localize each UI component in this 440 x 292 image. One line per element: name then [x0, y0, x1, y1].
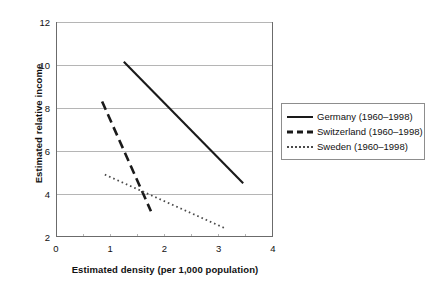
- y-tick-label: 2: [45, 232, 50, 243]
- series-line-0: [124, 62, 243, 183]
- x-tick-label: 2: [162, 243, 167, 254]
- plot-area: 24681012 01234: [56, 22, 273, 237]
- data-series: [102, 62, 243, 229]
- y-tick-label: 10: [39, 60, 50, 71]
- legend-item-label: Germany (1960–1998): [317, 111, 413, 122]
- y-tick-label: 8: [45, 103, 50, 114]
- series-line-1: [102, 102, 151, 212]
- chart-legend: Germany (1960–1998)Switzerland (1960–199…: [281, 103, 425, 160]
- x-axis-title: Estimated density (per 1,000 population): [56, 264, 274, 275]
- legend-swatch-dotted-icon: [287, 142, 313, 152]
- legend-swatch-solid-icon: [287, 112, 313, 122]
- legend-item: Germany (1960–1998): [287, 109, 420, 124]
- legend-swatch-dashed-icon: [287, 127, 313, 137]
- gridlines: [56, 22, 273, 194]
- x-tick-label: 3: [216, 243, 221, 254]
- legend-item-label: Sweden (1960–1998): [317, 141, 408, 152]
- legend-item-label: Switzerland (1960–1998): [317, 126, 423, 137]
- series-line-2: [105, 175, 225, 229]
- x-tick-label: 1: [108, 243, 113, 254]
- y-tick-label: 6: [45, 146, 50, 157]
- legend-item: Switzerland (1960–1998): [287, 124, 420, 139]
- y-tick-label: 4: [45, 189, 50, 200]
- y-tick-label: 12: [39, 17, 50, 28]
- axis-lines: [56, 22, 273, 237]
- chart-figure: Estimated relative income Estimated dens…: [0, 0, 440, 292]
- plot-canvas: [56, 22, 273, 237]
- x-tick-label: 4: [270, 243, 275, 254]
- legend-item: Sweden (1960–1998): [287, 139, 420, 154]
- axis-major-ticks: [56, 22, 273, 237]
- x-tick-label: 0: [53, 243, 58, 254]
